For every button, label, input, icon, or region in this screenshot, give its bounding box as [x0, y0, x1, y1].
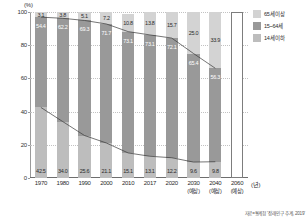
x-axis-unit-label: (년)	[251, 180, 260, 189]
legend-label: 15~64세	[264, 22, 283, 30]
x-axis-tick-label: 2020	[166, 180, 178, 188]
y-axis-tick-label: 80	[21, 42, 27, 48]
plot-area: 020406080100 3.154.442.53.862.234.05.169…	[30, 12, 248, 178]
x-axis-tick-label: 2000	[100, 180, 112, 188]
x-axis-tick-label: 1970	[35, 180, 47, 188]
legend-item[interactable]: 15~64세	[253, 22, 305, 30]
legend-item[interactable]: 14세 이하	[253, 34, 305, 42]
y-axis-tick-label: 100	[18, 9, 27, 15]
y-axis-unit-label: (%)	[24, 2, 33, 8]
y-axis-tick-label: 0	[24, 175, 27, 181]
trend-line-elderly-boundary	[41, 17, 215, 68]
source-note: 자료=통계청 '장래 인구 추계, 2019'	[245, 210, 305, 216]
x-axis-tick-label: 2010	[122, 180, 134, 188]
x-axis-tick-label: 2017	[144, 180, 156, 188]
x-axis-tick-label: 1990	[78, 180, 90, 188]
x-axis-tick-label: 2060(예상)	[231, 180, 243, 195]
y-axis-tick-label: 40	[21, 109, 27, 115]
legend-label: 14세 이하	[264, 34, 285, 42]
chart-page: (%) 020406080100 3.154.442.53.862.234.05…	[0, 0, 308, 219]
x-axis-tick-label: 2030(예상)	[187, 180, 199, 195]
legend-label: 65세 이상	[264, 10, 285, 18]
y-axis-tick-label: 60	[21, 75, 27, 81]
legend-swatch-icon	[253, 10, 261, 18]
y-axis-tick-mark	[28, 178, 30, 179]
legend-swatch-icon	[253, 22, 261, 30]
trend-lines	[30, 12, 248, 178]
legend-swatch-icon	[253, 34, 261, 42]
legend-item[interactable]: 65세 이상	[253, 10, 305, 18]
x-axis-tick-label: 1980	[57, 180, 69, 188]
x-axis-tick-label: 2040(예상)	[209, 180, 221, 195]
x-axis-labels: 19701980199020002010201720202030(예상)2040…	[30, 180, 248, 214]
chart-legend: 65세 이상15~64세14세 이하	[253, 10, 305, 46]
trend-line-young-boundary	[41, 107, 215, 162]
y-axis-tick-label: 20	[21, 142, 27, 148]
